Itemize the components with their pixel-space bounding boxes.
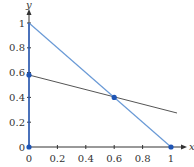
y-tick-label: 0.8 (9, 42, 25, 53)
x-tick-label: 1 (168, 153, 174, 164)
diagram-canvas: 0 0.2 0.4 0.6 0.8 1 0 0.2 0.4 0.6 0.8 1 … (0, 0, 194, 167)
blue-diagonal-line (29, 23, 171, 147)
gray-line (29, 75, 177, 113)
x-tick-label: 0.2 (49, 153, 65, 164)
y-tick-label: 0 (19, 142, 25, 153)
point-y-intercept (26, 72, 31, 77)
x-tick-label: 0.6 (106, 153, 122, 164)
point-origin (26, 144, 31, 149)
x-tick-label: 0.8 (135, 153, 151, 164)
y-tick-label: 1 (19, 18, 25, 29)
y-tick-label: 0.2 (9, 117, 25, 128)
x-tick-label: 0.4 (78, 153, 94, 164)
y-tick-label: 0.6 (9, 67, 25, 78)
y-axis-label: y (25, 0, 32, 10)
point-intersection (112, 95, 117, 100)
x-axis-arrow-icon (181, 145, 187, 150)
y-tick-label: 0.4 (9, 92, 25, 103)
point-x-intercept (168, 144, 173, 149)
x-tick-label: 0 (26, 153, 32, 164)
x-axis-label: x (189, 141, 194, 152)
